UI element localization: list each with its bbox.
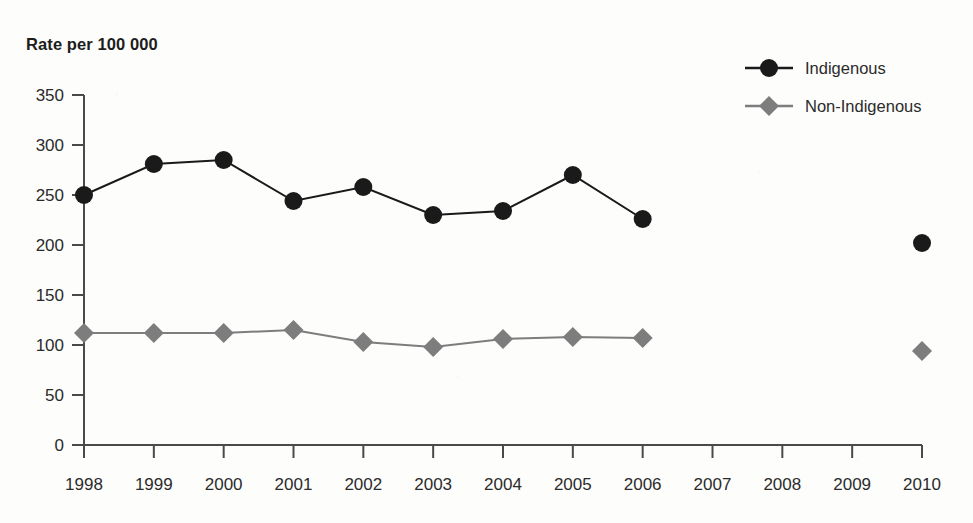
chart-page: Rate per 100 000 050100150200250300350 1… <box>0 0 973 523</box>
line-chart: 050100150200250300350 199819992000200120… <box>0 0 973 523</box>
chart-legend: IndigenousNon-Indigenous <box>745 59 922 116</box>
data-point-marker <box>285 192 303 210</box>
data-series-layer <box>74 151 932 361</box>
y-tick-label: 250 <box>36 186 64 205</box>
x-tick-label: 2004 <box>484 475 522 494</box>
x-tick-label: 2009 <box>833 475 871 494</box>
x-tick-label: 2000 <box>205 475 243 494</box>
data-point-marker <box>75 186 93 204</box>
x-axis-ticks: 1998199920002001200220032004200520062007… <box>65 445 941 494</box>
y-tick-label: 200 <box>36 236 64 255</box>
data-point-marker <box>760 59 778 77</box>
data-point-marker <box>634 210 652 228</box>
series-non-indigenous <box>74 320 932 361</box>
legend-item-non-indigenous[interactable]: Non-Indigenous <box>745 96 922 116</box>
legend-label: Non-Indigenous <box>805 97 922 115</box>
x-tick-label: 2006 <box>624 475 662 494</box>
data-point-marker <box>284 320 304 340</box>
x-tick-label: 2001 <box>275 475 313 494</box>
y-tick-label: 350 <box>36 86 64 105</box>
axis-lines <box>84 95 922 445</box>
data-point-marker <box>633 328 653 348</box>
data-point-marker <box>354 178 372 196</box>
data-point-marker <box>215 151 233 169</box>
data-point-marker <box>564 166 582 184</box>
y-tick-label: 50 <box>45 386 64 405</box>
legend-item-indigenous[interactable]: Indigenous <box>745 59 886 77</box>
legend-label: Indigenous <box>805 59 886 77</box>
data-point-marker <box>74 323 94 343</box>
y-tick-label: 300 <box>36 136 64 155</box>
data-point-marker <box>145 155 163 173</box>
data-point-marker <box>424 206 442 224</box>
x-tick-label: 2010 <box>903 475 941 494</box>
x-tick-label: 2005 <box>554 475 592 494</box>
data-point-marker <box>493 329 513 349</box>
x-tick-label: 1999 <box>135 475 173 494</box>
data-point-marker <box>214 323 234 343</box>
data-point-marker <box>563 327 583 347</box>
data-point-marker <box>913 234 931 252</box>
y-axis-ticks: 050100150200250300350 <box>36 86 84 455</box>
data-point-marker <box>494 202 512 220</box>
data-point-marker <box>759 96 779 116</box>
series-indigenous <box>75 151 931 252</box>
x-tick-label: 2007 <box>694 475 732 494</box>
data-point-marker <box>144 323 164 343</box>
y-tick-label: 0 <box>55 436 64 455</box>
y-tick-label: 100 <box>36 336 64 355</box>
data-point-marker <box>912 341 932 361</box>
x-tick-label: 1998 <box>65 475 103 494</box>
x-tick-label: 2008 <box>763 475 801 494</box>
x-tick-label: 2003 <box>414 475 452 494</box>
x-tick-label: 2002 <box>344 475 382 494</box>
data-point-marker <box>423 337 443 357</box>
y-tick-label: 150 <box>36 286 64 305</box>
data-point-marker <box>353 332 373 352</box>
